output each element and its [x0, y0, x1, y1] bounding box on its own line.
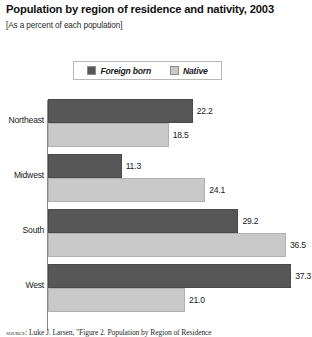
bar-value-south-foreign-born: 29.2	[242, 216, 258, 226]
region-label-west: West	[0, 280, 44, 290]
bar-value-midwest-foreign-born: 11.3	[126, 161, 141, 171]
bar-south-foreign-born	[48, 209, 238, 233]
region-label-northeast: Northeast	[0, 115, 44, 125]
chart-figure: Population by region of residence and na…	[0, 0, 312, 337]
region-group-west: West 37.3 21.0	[0, 261, 312, 312]
source-note-text: Luke J. Larsen, "Figure 2. Population by…	[29, 328, 212, 337]
legend-swatch-native	[170, 66, 179, 75]
chart-title: Population by region of residence and na…	[6, 3, 308, 16]
region-label-south: South	[0, 225, 44, 235]
bar-northeast-native	[48, 123, 169, 147]
bar-value-northeast-native: 18.5	[173, 130, 189, 140]
chart-legend: Foreign born Native	[73, 61, 222, 80]
bar-value-west-native: 21.0	[189, 295, 205, 305]
bar-midwest-native	[48, 178, 205, 202]
bar-value-south-native: 36.5	[290, 240, 306, 250]
source-note: source: Luke J. Larsen, "Figure 2. Popul…	[6, 328, 312, 337]
legend-entry-foreign-born: Foreign born	[87, 66, 151, 76]
legend-label-native: Native	[183, 66, 208, 76]
bar-northeast-foreign-born	[48, 99, 193, 123]
bar-midwest-foreign-born	[48, 154, 122, 178]
source-note-label: source:	[6, 328, 27, 337]
legend-entry-native: Native	[170, 66, 208, 76]
legend-swatch-foreign-born	[87, 66, 96, 75]
region-group-northeast: Northeast 22.2 18.5	[0, 96, 312, 147]
plot-area: Northeast 22.2 18.5 Midwest 11.3 24.1	[0, 96, 312, 332]
bar-value-northeast-foreign-born: 22.2	[197, 106, 213, 116]
legend-label-foreign-born: Foreign born	[100, 66, 151, 76]
region-group-midwest: Midwest 11.3 24.1	[0, 151, 312, 202]
bar-value-midwest-native: 24.1	[209, 185, 225, 195]
bar-west-foreign-born	[48, 264, 291, 288]
region-label-midwest: Midwest	[0, 170, 44, 180]
chart-subtitle: [As a percent of each population]	[6, 21, 122, 30]
bar-value-west-foreign-born: 37.3	[295, 271, 311, 281]
region-group-south: South 29.2 36.5	[0, 206, 312, 257]
bar-south-native	[48, 233, 286, 257]
bar-west-native	[48, 288, 185, 312]
